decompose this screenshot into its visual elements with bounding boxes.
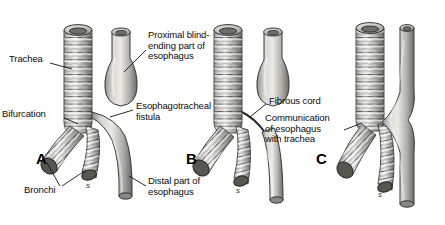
panel-letter-a: A: [36, 150, 47, 167]
label-fibrous-cord: Fibrous cord: [269, 96, 339, 107]
label-distal-esophagus: Distal part of esophagus: [148, 176, 228, 197]
panel-letter-c: C: [316, 150, 327, 167]
artist-signature-b: s: [236, 186, 240, 195]
tracheoesophageal-fistula-figure: Trachea Bifurcation Bronchi Proximal bli…: [0, 0, 445, 225]
label-proximal-pouch: Proximal blind- ending part of esophagus: [148, 30, 234, 62]
label-fistula: Esophagotracheal fistula: [136, 101, 228, 122]
panel-letter-b: B: [186, 150, 197, 167]
label-trachea: Trachea: [9, 54, 57, 65]
artist-signature-a: s: [86, 181, 90, 190]
label-communication: Communication of esophagus with trachea: [265, 113, 347, 145]
label-bifurcation: Bifurcation: [2, 109, 64, 120]
label-bronchi: Bronchi: [24, 185, 72, 196]
artist-signature-c: s: [378, 190, 382, 199]
